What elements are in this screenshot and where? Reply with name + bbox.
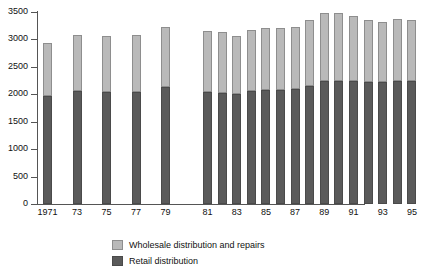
bar-1985 (261, 28, 270, 204)
legend-label-retail: Retail distribution (129, 255, 198, 268)
bar-segment-wholesale (334, 13, 343, 81)
bar-1989 (320, 13, 329, 204)
bar-segment-wholesale (161, 27, 170, 87)
y-axis-tick-label: 500 (13, 171, 28, 182)
bar-segment-retail (291, 89, 300, 204)
bar-segment-wholesale (349, 16, 358, 81)
legend-label-wholesale: Wholesale distribution and repairs (129, 239, 265, 252)
bar-segment-retail (203, 92, 212, 204)
bar-segment-wholesale (378, 22, 387, 82)
legend-swatch-wholesale-icon (112, 240, 123, 250)
legend-item-wholesale: Wholesale distribution and repairs (112, 238, 265, 252)
x-axis-tick-label: 87 (279, 207, 311, 218)
bar-1981 (203, 31, 212, 204)
bar-segment-retail (349, 81, 358, 204)
y-axis-tick-label: 3500 (8, 6, 28, 17)
bar-segment-retail (378, 82, 387, 204)
bar-1993 (378, 22, 387, 204)
bar-segment-retail (261, 90, 270, 204)
bar-segment-wholesale (73, 35, 82, 92)
bar-segment-wholesale (276, 28, 285, 90)
x-axis-line (37, 204, 365, 205)
bar-1986 (276, 28, 285, 204)
y-axis-tick-label: 2000 (8, 88, 28, 99)
x-axis-tick-label: 95 (396, 207, 422, 218)
bar-segment-retail (364, 82, 373, 204)
y-axis-tick: 500 (31, 177, 38, 178)
x-axis-tick-label: 93 (367, 207, 399, 218)
bar-segment-wholesale (218, 32, 227, 92)
x-axis-tick-label: 79 (150, 207, 182, 218)
y-axis-tick: 2500 (31, 67, 38, 68)
x-axis-tick-label: 77 (120, 207, 152, 218)
chart-legend: Wholesale distribution and repairs Retai… (112, 238, 265, 270)
bar-segment-retail (320, 81, 329, 204)
legend-item-retail: Retail distribution (112, 254, 265, 268)
bar-1979 (161, 27, 170, 204)
y-axis-tick: 1500 (31, 122, 38, 123)
y-axis-tick: 2000 (31, 94, 38, 95)
bar-segment-wholesale (132, 35, 141, 92)
bar-segment-retail (305, 86, 314, 204)
y-axis-tick: 0 (31, 204, 38, 205)
y-axis-tick-label: 3000 (8, 33, 28, 44)
bar-segment-wholesale (203, 31, 212, 92)
bar-1984 (247, 30, 256, 204)
bar-1975 (102, 36, 111, 204)
x-axis-tick-label: 89 (308, 207, 340, 218)
x-axis-tick-label: 91 (338, 207, 370, 218)
bar-1994 (393, 19, 402, 204)
bar-1982 (218, 32, 227, 204)
bar-1987 (291, 27, 300, 204)
y-axis-tick-label: 0 (23, 198, 28, 209)
bar-segment-retail (334, 81, 343, 204)
bar-segment-wholesale (43, 43, 52, 96)
plot-area (38, 12, 365, 204)
bar-segment-retail (247, 91, 256, 204)
bar-segment-retail (393, 81, 402, 204)
x-axis-tick-label: 73 (61, 207, 93, 218)
x-axis-tick-label: 85 (250, 207, 282, 218)
bar-segment-retail (276, 90, 285, 204)
x-axis-tick-label: 83 (221, 207, 253, 218)
bar-segment-wholesale (407, 20, 416, 81)
bar-1988 (305, 20, 314, 204)
bar-segment-retail (407, 81, 416, 204)
x-axis-tick-label: 1971 (32, 207, 64, 218)
bar-1991 (349, 16, 358, 204)
bar-segment-wholesale (102, 36, 111, 92)
bar-segment-retail (73, 91, 82, 204)
bar-segment-wholesale (291, 27, 300, 90)
bar-segment-retail (43, 96, 52, 204)
y-axis-tick-label: 1500 (8, 116, 28, 127)
bar-segment-retail (161, 87, 170, 204)
bar-segment-wholesale (305, 20, 314, 86)
bar-segment-retail (102, 92, 111, 204)
bar-segment-wholesale (247, 30, 256, 91)
bar-1992 (364, 20, 373, 204)
bar-1990 (334, 13, 343, 204)
bar-1983 (232, 36, 241, 204)
y-axis-tick: 3500 (31, 12, 38, 13)
legend-swatch-retail-icon (112, 256, 123, 266)
bar-1971 (43, 43, 52, 204)
bar-segment-retail (132, 92, 141, 204)
y-axis-tick-label: 1000 (8, 143, 28, 154)
bar-segment-retail (232, 94, 241, 204)
bar-segment-retail (218, 93, 227, 204)
bar-segment-wholesale (364, 20, 373, 81)
x-axis-tick-label: 75 (91, 207, 123, 218)
bar-1973 (73, 35, 82, 205)
bar-segment-wholesale (320, 13, 329, 82)
bar-segment-wholesale (261, 28, 270, 90)
x-axis-tick-label: 81 (192, 207, 224, 218)
bar-segment-wholesale (393, 19, 402, 81)
bar-segment-wholesale (232, 36, 241, 95)
y-axis-tick: 1000 (31, 149, 38, 150)
y-axis-tick-label: 2500 (8, 61, 28, 72)
bar-1977 (132, 35, 141, 204)
bar-1995 (407, 20, 416, 204)
y-axis-tick: 3000 (31, 39, 38, 40)
